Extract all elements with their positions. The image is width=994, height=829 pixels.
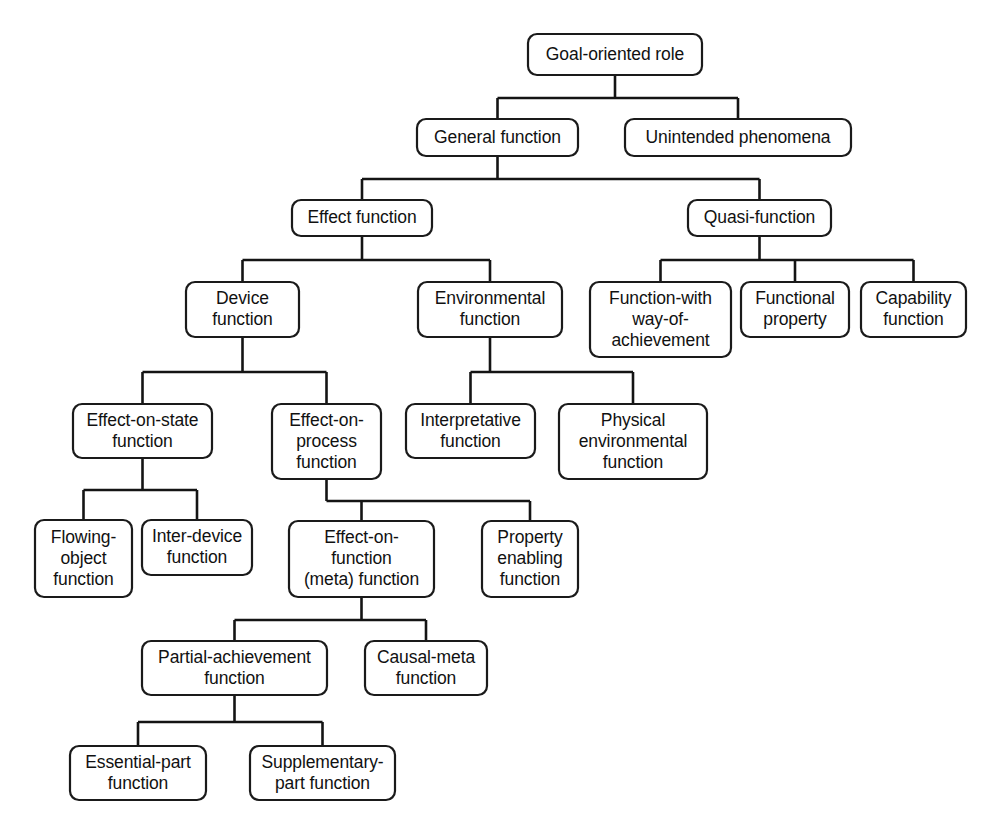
node-label: Effect-on-processfunction — [289, 409, 364, 471]
node-label: Functionalproperty — [755, 288, 835, 329]
node-label: Quasi-function — [704, 207, 815, 227]
node-label-line: Inter-device — [152, 526, 242, 546]
node-unintended-phenomena[interactable]: Unintended phenomena — [625, 119, 851, 156]
node-environmental-function[interactable]: Environmentalfunction — [418, 282, 562, 337]
tree-diagram-canvas: Goal-oriented roleGeneral functionUninte… — [0, 0, 994, 829]
node-general-function[interactable]: General function — [417, 119, 578, 156]
node-label-line: Functional — [755, 288, 835, 308]
function-hierarchy-diagram: Goal-oriented roleGeneral functionUninte… — [0, 0, 994, 829]
node-label-line: environmental — [579, 430, 688, 450]
node-label-line: Goal-oriented role — [546, 43, 684, 63]
node-label-line: Capability — [876, 288, 952, 308]
node-physical-environmental-function[interactable]: Physicalenvironmentalfunction — [559, 404, 707, 479]
node-label-line: Essential-part — [85, 751, 191, 771]
node-effect-on-state-function[interactable]: Effect-on-statefunction — [73, 404, 212, 458]
node-label-line: Unintended phenomena — [646, 126, 831, 146]
node-label-line: function — [204, 667, 265, 687]
node-label-line: Effect function — [307, 207, 416, 227]
node-supplementary-part-function[interactable]: Supplementary-part function — [250, 746, 395, 800]
node-label-line: function — [212, 309, 273, 329]
node-inter-device-function[interactable]: Inter-devicefunction — [142, 520, 252, 575]
node-label-line: function — [500, 569, 561, 589]
node-label-line: Supplementary- — [261, 751, 383, 771]
edge-group-general-function — [362, 156, 760, 200]
edge-group-effect-function — [243, 236, 491, 282]
node-label-line: function — [603, 451, 664, 471]
node-label-line: Effect-on- — [289, 409, 364, 429]
node-label-line: Quasi-function — [704, 207, 815, 227]
edge-group-effect-on-state-function — [84, 458, 198, 520]
node-interpretative-function[interactable]: Interpretativefunction — [406, 404, 535, 458]
edge-group-device-function — [143, 337, 327, 404]
node-label-line: Flowing- — [51, 526, 117, 546]
node-label-line: function — [460, 309, 521, 329]
node-label-line: Property — [497, 527, 563, 547]
edge-group-partial-achievement-function — [138, 695, 323, 746]
node-label-line: Environmental — [435, 288, 546, 308]
node-essential-part-function[interactable]: Essential-partfunction — [70, 746, 206, 800]
node-goal-oriented-role[interactable]: Goal-oriented role — [528, 34, 702, 75]
node-label-line: function — [440, 430, 501, 450]
node-label-line: Effect-on- — [324, 527, 399, 547]
node-label-line: object — [60, 547, 106, 567]
node-label-line: function — [112, 430, 173, 450]
node-layer: Goal-oriented roleGeneral functionUninte… — [35, 34, 966, 800]
node-flowing-object-function[interactable]: Flowing-objectfunction — [35, 520, 132, 597]
node-label-line: function — [883, 309, 944, 329]
node-label-line: General function — [434, 126, 561, 146]
node-label-line: way-of- — [631, 308, 689, 328]
node-causal-meta-function[interactable]: Causal-metafunction — [365, 641, 487, 695]
node-label-line: function — [108, 772, 169, 792]
node-label: Goal-oriented role — [546, 43, 684, 63]
node-label: Devicefunction — [212, 288, 273, 329]
node-label-line: function — [167, 547, 228, 567]
node-label-line: Function-with — [609, 287, 712, 307]
node-label-line: Device — [216, 288, 269, 308]
node-device-function[interactable]: Devicefunction — [186, 282, 299, 337]
node-effect-on-function-meta-function[interactable]: Effect-on-function(meta) function — [289, 521, 434, 597]
node-capability-function[interactable]: Capabilityfunction — [861, 282, 966, 337]
node-function-with-way-of-achievement[interactable]: Function-withway-of-achievement — [590, 282, 731, 357]
node-effect-on-process-function[interactable]: Effect-on-processfunction — [272, 404, 381, 479]
node-property-enabling-function[interactable]: Propertyenablingfunction — [482, 521, 578, 597]
node-label-line: process — [296, 430, 357, 450]
node-label: Unintended phenomena — [646, 126, 831, 146]
node-label-line: Physical — [601, 409, 665, 429]
node-label-line: function — [396, 667, 457, 687]
node-label-line: function — [331, 548, 392, 568]
edge-group-quasi-function — [661, 236, 914, 282]
node-label: Capabilityfunction — [876, 288, 952, 329]
node-label-line: achievement — [611, 329, 709, 349]
node-label: Supplementary-part function — [261, 751, 383, 792]
node-label-line: Causal-meta — [377, 646, 475, 666]
node-functional-property[interactable]: Functionalproperty — [741, 282, 849, 337]
node-effect-function[interactable]: Effect function — [292, 200, 432, 236]
edge-group-goal-oriented-role — [498, 75, 739, 119]
node-label-line: Effect-on-state — [87, 409, 199, 429]
node-partial-achievement-function[interactable]: Partial-achievementfunction — [142, 641, 327, 695]
edge-group-effect-on-function-meta-function — [235, 597, 427, 641]
node-label-line: enabling — [497, 548, 562, 568]
node-label-line: function — [296, 451, 357, 471]
node-label-line: function — [53, 568, 114, 588]
node-label-line: Partial-achievement — [158, 646, 311, 666]
node-label-line: Interpretative — [420, 409, 521, 429]
node-label-line: part function — [275, 772, 370, 792]
node-label: Effect function — [307, 207, 416, 227]
node-label-line: (meta) function — [304, 569, 419, 589]
node-label-line: property — [763, 309, 827, 329]
node-label: General function — [434, 126, 561, 146]
node-quasi-function[interactable]: Quasi-function — [688, 200, 831, 236]
edge-group-effect-on-process-function — [327, 479, 531, 521]
node-label: Propertyenablingfunction — [497, 527, 563, 589]
